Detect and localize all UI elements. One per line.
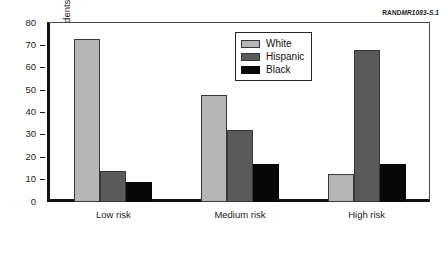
x-label-medium-risk: Medium risk: [177, 209, 304, 220]
legend-swatch-white: [241, 40, 260, 48]
y-tick-label: 50: [25, 84, 36, 95]
y-tick-mark: [40, 67, 45, 68]
y-tick-mark: [40, 90, 45, 91]
y-tick-label: 60: [25, 61, 36, 72]
bar-medium-risk-black: [253, 164, 279, 202]
y-tick-label: 10: [25, 173, 36, 184]
y-tick-label: 70: [25, 39, 36, 50]
bar-low-risk-black: [126, 182, 152, 202]
bar-medium-risk-hispanic: [227, 130, 253, 202]
bar-group-low-risk: [74, 23, 152, 202]
y-tick-label: 30: [25, 128, 36, 139]
y-tick-mark: [40, 45, 45, 46]
bar-low-risk-white: [74, 39, 100, 202]
legend-label: Hispanic: [266, 51, 304, 62]
y-tick-mark: [40, 134, 45, 135]
legend-label: Black: [266, 64, 290, 75]
y-tick-label: 0: [31, 196, 36, 207]
figure-id-label: RANDMR1083-S.1: [382, 9, 439, 16]
figure-id-number: MR1083-S.1: [402, 9, 440, 16]
figure-container: RANDMR1083-S.1 Percentage of students 01…: [0, 0, 445, 257]
y-tick-label: 20: [25, 151, 36, 162]
y-tick-mark: [40, 179, 45, 180]
legend-swatch-hispanic: [241, 53, 260, 61]
bar-high-risk-black: [380, 164, 406, 202]
bar-medium-risk-white: [201, 95, 227, 202]
x-label-low-risk: Low risk: [50, 209, 177, 220]
chart-legend: WhiteHispanicBlack: [235, 32, 312, 81]
bar-group-high-risk: [328, 23, 406, 202]
bar-high-risk-white: [328, 174, 354, 202]
y-tick-label: 80: [25, 17, 36, 28]
figure-id-prefix: RAND: [382, 9, 401, 16]
y-tick-label: 40: [25, 106, 36, 117]
legend-label: White: [266, 38, 292, 49]
bar-high-risk-hispanic: [354, 50, 380, 202]
legend-item-white: White: [241, 37, 304, 50]
legend-item-black: Black: [241, 63, 304, 76]
y-tick-mark: [40, 157, 45, 158]
x-label-high-risk: High risk: [303, 209, 430, 220]
legend-item-hispanic: Hispanic: [241, 50, 304, 63]
y-tick-mark: [40, 112, 45, 113]
bar-low-risk-hispanic: [100, 171, 126, 202]
legend-swatch-black: [241, 66, 260, 74]
